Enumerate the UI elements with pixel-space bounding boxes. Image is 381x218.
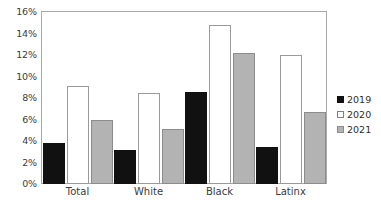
bar-group [184,12,255,184]
bar-white-2019 [114,150,136,184]
x-axis-tick-label: White [134,186,163,197]
legend-swatch-icon [337,96,344,103]
y-axis-tick-label: 2% [22,158,37,168]
chart-legend: 201920202021 [337,92,381,137]
bar-group [255,12,326,184]
bar-total-2021 [91,120,113,185]
bar-white-2020 [138,93,160,184]
bar-total-2020 [67,86,89,184]
plot-area [42,12,326,184]
y-axis-tick-label: 10% [16,72,37,82]
y-axis-tick-label: 6% [22,115,37,125]
bar-black-2021 [233,53,255,184]
bar-group [42,12,113,184]
bar-chart: 0%2%4%6%8%10%12%14%16% TotalWhiteBlackLa… [0,0,381,218]
y-axis-tick-label: 14% [16,29,37,39]
x-axis-tick-label: Latinx [275,186,306,197]
bar-latinx-2021 [304,112,326,184]
bar-group [113,12,184,184]
y-axis-tick-label: 16% [16,7,37,17]
y-axis-tick-label: 0% [22,179,37,189]
y-axis-tick-label: 4% [22,136,37,146]
legend-item-2020[interactable]: 2020 [337,107,381,122]
legend-item-2019[interactable]: 2019 [337,92,381,107]
bar-latinx-2019 [256,147,278,184]
bar-black-2020 [209,25,231,184]
bar-total-2019 [43,143,65,184]
x-axis: TotalWhiteBlackLatinx [42,186,326,208]
legend-item-label: 2020 [347,110,371,120]
bar-white-2021 [162,129,184,184]
x-axis-tick-label: Total [66,186,89,197]
legend-swatch-icon [337,126,344,133]
legend-item-label: 2021 [347,125,371,135]
y-axis: 0%2%4%6%8%10%12%14%16% [0,0,40,218]
legend-swatch-icon [337,111,344,118]
legend-item-label: 2019 [347,95,371,105]
bar-latinx-2020 [280,55,302,184]
y-axis-tick-label: 8% [22,93,37,103]
bar-black-2019 [185,92,207,184]
x-axis-tick-label: Black [206,186,233,197]
y-axis-tick-label: 12% [16,50,37,60]
legend-item-2021[interactable]: 2021 [337,122,381,137]
